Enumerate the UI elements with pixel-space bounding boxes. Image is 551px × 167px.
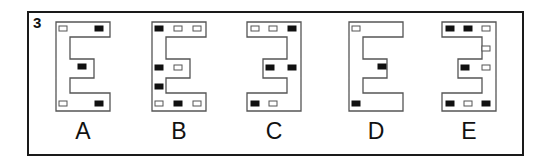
filled-square-icon [155, 84, 163, 89]
three-shape-icon [246, 21, 304, 113]
open-square-icon [269, 101, 277, 106]
open-square-icon [193, 26, 201, 31]
figure-b[interactable] [151, 21, 209, 113]
three-shape-icon [441, 21, 499, 113]
option-label-c[interactable]: C [254, 118, 294, 145]
open-square-icon [482, 65, 490, 70]
option-label-b[interactable]: B [159, 118, 199, 145]
e-shape-icon [151, 21, 209, 113]
figure-c[interactable] [246, 21, 304, 113]
filled-square-icon [461, 65, 469, 70]
filled-square-icon [446, 26, 454, 31]
open-square-icon [464, 101, 472, 106]
filled-square-icon [95, 101, 103, 106]
filled-square-icon [155, 65, 163, 70]
filled-square-icon [174, 101, 182, 106]
filled-square-icon [155, 26, 163, 31]
open-square-icon [59, 101, 67, 106]
filled-square-icon [288, 65, 296, 70]
open-square-icon [193, 101, 201, 106]
filled-square-icon [482, 101, 490, 106]
filled-square-icon [266, 65, 274, 70]
filled-square-icon [251, 101, 259, 106]
filled-square-icon [446, 101, 454, 106]
option-label-a[interactable]: A [63, 118, 103, 145]
filled-square-icon [378, 64, 386, 69]
open-square-icon [174, 65, 182, 70]
open-square-icon [251, 26, 259, 31]
filled-square-icon [464, 26, 472, 31]
filled-square-icon [352, 101, 360, 106]
e-shape-icon [348, 21, 406, 113]
figure-a[interactable] [55, 21, 113, 113]
figure-outline [349, 22, 403, 111]
filled-square-icon [288, 26, 296, 31]
open-square-icon [174, 26, 182, 31]
e-shape-icon [55, 21, 113, 113]
open-square-icon [482, 26, 490, 31]
filled-square-icon [95, 26, 103, 31]
open-square-icon [59, 26, 67, 31]
open-square-icon [482, 46, 490, 51]
open-square-icon [352, 26, 360, 31]
option-label-d[interactable]: D [356, 118, 396, 145]
question-number: 3 [33, 14, 41, 31]
open-square-icon [269, 26, 277, 31]
figure-e[interactable] [441, 21, 499, 113]
figure-d[interactable] [348, 21, 406, 113]
option-label-e[interactable]: E [449, 118, 489, 145]
filled-square-icon [78, 64, 86, 69]
open-square-icon [155, 101, 163, 106]
